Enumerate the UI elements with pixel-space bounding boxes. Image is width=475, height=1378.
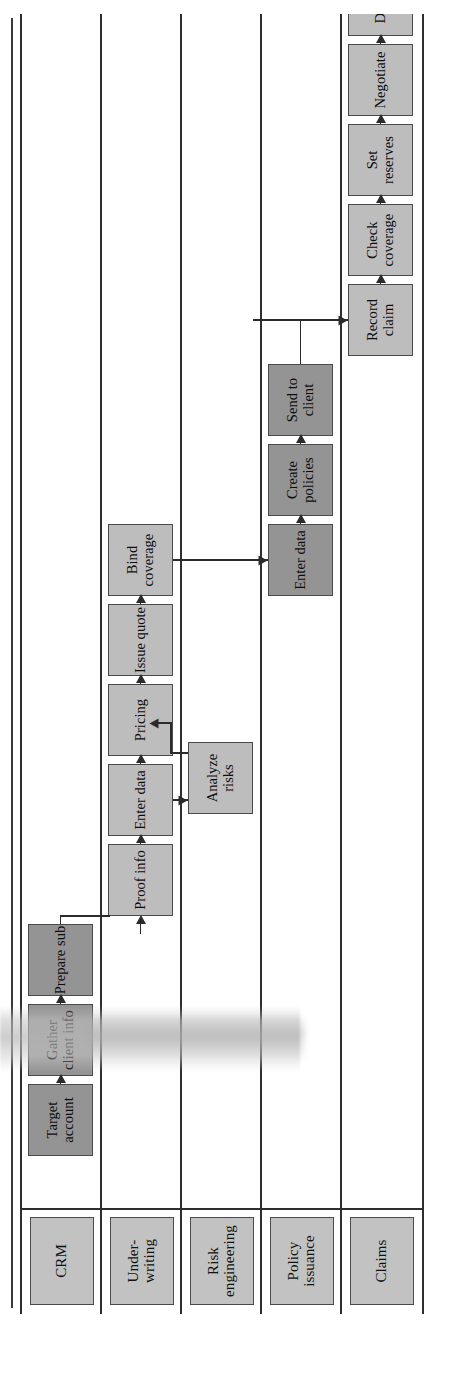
arrowhead-target-to-gather <box>56 1074 66 1083</box>
lane-label-underwriting: Under-writing <box>110 1217 174 1305</box>
swimlane-diagram: CRM Under-writing Risk engineering Polic… <box>20 14 450 1314</box>
task-pricing[interactable]: Pricing <box>108 684 173 756</box>
arrowhead-bindcoverage-to-enterdata-pi <box>259 556 268 566</box>
lane-label-cell-crm: CRM <box>22 1208 102 1314</box>
lane-policy-issuance: Policy issuance <box>260 14 342 1314</box>
lane-label-cell-underwriting: Under-writing <box>102 1208 182 1314</box>
lane-risk-engineering: Risk engineering <box>180 14 262 1314</box>
arrowhead-checkcoverage-to-setreserves <box>376 194 386 203</box>
task-send-to-client[interactable]: Send to client <box>268 364 333 436</box>
task-record-claim[interactable]: Record claim <box>348 284 413 356</box>
arrowhead-analyzerisks-to-pricing <box>150 719 159 729</box>
arrowhead-enterdata-to-createpolicies <box>296 514 306 523</box>
arrowhead-createpolicies-to-sendtoclient <box>296 434 306 443</box>
page-frame-left-rule <box>11 18 13 1308</box>
task-analyze-risks[interactable]: Analyze risks <box>188 742 253 814</box>
lane-label-cell-policy-issuance: Policy issuance <box>262 1208 342 1314</box>
task-enter-data-policy-issuance[interactable]: Enter data <box>268 524 333 596</box>
arrowhead-gather-to-prepare <box>56 994 66 1003</box>
task-negotiate[interactable]: Negotiate <box>348 44 413 116</box>
lane-label-risk-engineering: Risk engineering <box>190 1217 254 1305</box>
arrowhead-recordclaim-to-checkcoverage <box>376 274 386 283</box>
connector-bindcoverage-to-enterdata-pi <box>173 559 268 561</box>
connector-analyzerisks-to-pricing-rise <box>170 752 188 754</box>
task-gather-client-info[interactable]: Gather client info <box>28 1004 93 1076</box>
arrowhead-enterdata-to-pricing <box>136 754 146 763</box>
diagram-canvas: CRM Under-writing Risk engineering Polic… <box>20 14 450 1314</box>
task-bind-coverage[interactable]: Bind coverage <box>108 524 173 596</box>
task-set-reserves[interactable]: Set reserves <box>348 124 413 196</box>
task-target-account[interactable]: Target account <box>28 1084 93 1156</box>
lane-label-crm: CRM <box>30 1217 94 1305</box>
connector-sendtoclient-to-recordclaim <box>300 320 302 364</box>
arrowhead-issuequote-to-bindcoverage <box>136 594 146 603</box>
task-dispose[interactable]: Dispose <box>348 14 413 36</box>
arrowhead-negotiate-to-dispose <box>376 34 386 43</box>
connector-prepare-to-proof-entry <box>140 922 142 934</box>
task-prepare-sub[interactable]: Prepare sub <box>28 924 93 996</box>
task-check-coverage[interactable]: Check coverage <box>348 204 413 276</box>
lane-label-cell-risk-engineering: Risk engineering <box>182 1208 262 1314</box>
connector-analyzerisks-to-pricing-run <box>170 722 172 754</box>
task-enter-data-underwriting[interactable]: Enter data <box>108 764 173 836</box>
arrowhead-pricing-to-issuequote <box>136 674 146 683</box>
lane-label-policy-issuance: Policy issuance <box>270 1217 334 1305</box>
task-issue-quote[interactable]: Issue quote <box>108 604 173 676</box>
arrowhead-enterdata-to-analyzerisks <box>179 796 188 806</box>
arrowhead-sendtoclient-to-recordclaim <box>339 316 348 326</box>
lane-label-claims: Claims <box>350 1217 414 1305</box>
arrowhead-setreserves-to-negotiate <box>376 114 386 123</box>
arrowhead-proof-to-enterdata <box>136 834 146 843</box>
task-proof-info[interactable]: Proof info <box>108 844 173 916</box>
connector-prepare-to-proof-drop <box>60 915 110 917</box>
task-create-policies[interactable]: Create policies <box>268 444 333 516</box>
lane-label-cell-claims: Claims <box>342 1208 422 1314</box>
